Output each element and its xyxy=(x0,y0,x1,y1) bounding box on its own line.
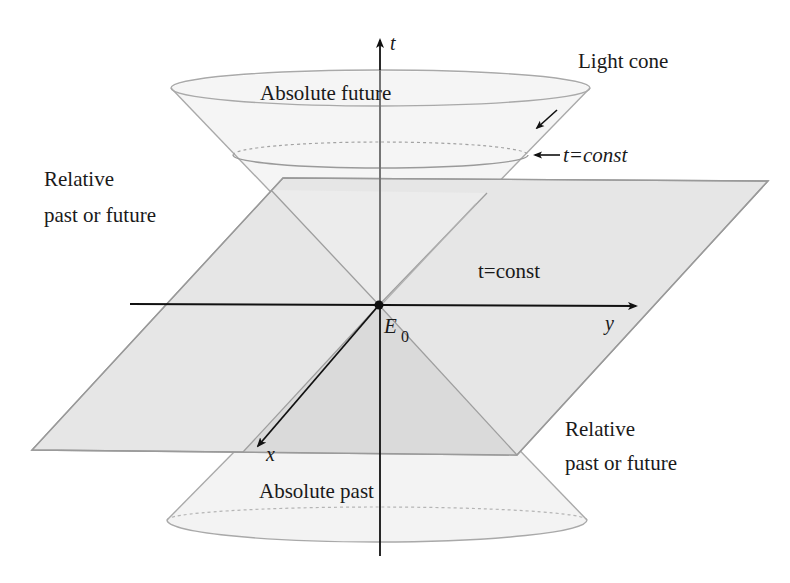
relative-right-line2: past or future xyxy=(565,451,677,475)
absolute-past-label: Absolute past xyxy=(259,479,374,503)
event-point-e0 xyxy=(375,301,384,310)
light-cone-diagram: Light cone t=const Absolute future Absol… xyxy=(0,0,790,583)
event-label-subscript: 0 xyxy=(401,328,409,345)
plane-label: t=const xyxy=(478,259,540,283)
relative-right-line1: Relative xyxy=(565,417,635,441)
diagram-canvas: Light cone t=const Absolute future Absol… xyxy=(0,0,790,583)
relative-left-line2: past or future xyxy=(44,203,156,227)
event-label-main: E xyxy=(383,314,397,338)
t-axis-label: t xyxy=(390,32,396,54)
x-axis-label: x xyxy=(265,443,275,465)
y-axis-label: y xyxy=(603,312,614,335)
t-const-arrow-label: t=const xyxy=(563,143,628,167)
relative-left-line1: Relative xyxy=(44,167,114,191)
absolute-future-label: Absolute future xyxy=(260,81,391,105)
light-cone-label: Light cone xyxy=(578,49,668,73)
